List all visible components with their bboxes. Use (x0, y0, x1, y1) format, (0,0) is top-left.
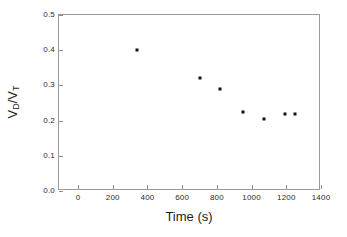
y-axis-tick (59, 85, 63, 86)
data-point-marker (241, 110, 244, 113)
data-point-marker (262, 117, 265, 120)
x-axis-tick (286, 185, 287, 189)
x-axis-tick (113, 185, 114, 189)
data-point-marker (198, 77, 201, 80)
x-axis-tick (321, 185, 322, 189)
x-axis-tick-label: 400 (141, 194, 155, 202)
y-axis-tick-label: 0.3 (43, 81, 55, 89)
x-axis-tick-label: 800 (210, 194, 224, 202)
scatter-plot-figure: 0.00.10.20.30.40.50200400600800100012001… (0, 0, 347, 237)
y-axis-tick-label: 0.1 (43, 152, 55, 160)
y-axis-title-sub-t: T (11, 86, 21, 92)
x-axis-tick (147, 185, 148, 189)
data-point-marker (135, 49, 138, 52)
x-axis-tick-label: 0 (76, 194, 81, 202)
y-axis-tick-label: 0.0 (43, 187, 55, 195)
y-axis-title: VD/VT (6, 86, 19, 119)
x-axis-tick-label: 600 (175, 194, 189, 202)
data-point-marker (219, 87, 222, 90)
y-axis-tick (59, 50, 63, 51)
y-axis-tick (59, 156, 63, 157)
x-axis-tick-label: 1000 (242, 194, 261, 202)
data-point-marker (283, 113, 286, 116)
y-axis-title-v1: V (5, 110, 20, 119)
x-axis-tick (78, 185, 79, 189)
x-axis-tick-label: 1400 (312, 194, 331, 202)
y-axis-tick-label: 0.5 (43, 11, 55, 19)
y-axis-tick-label: 0.2 (43, 117, 55, 125)
y-axis-tick (59, 191, 63, 192)
y-axis-tick (59, 121, 63, 122)
plot-area: 0.00.10.20.30.40.50200400600800100012001… (58, 14, 320, 190)
y-axis-title-slash-v: /V (5, 91, 20, 103)
y-axis-title-sub-d: D (11, 103, 21, 110)
x-axis-title: Time (s) (58, 210, 320, 223)
y-axis-tick-label: 0.4 (43, 46, 55, 54)
x-axis-tick-label: 1200 (277, 194, 296, 202)
x-axis-tick (252, 185, 253, 189)
y-axis-tick (59, 15, 63, 16)
x-axis-tick (182, 185, 183, 189)
x-axis-tick-label: 200 (106, 194, 120, 202)
data-point-marker (293, 113, 296, 116)
x-axis-tick (217, 185, 218, 189)
